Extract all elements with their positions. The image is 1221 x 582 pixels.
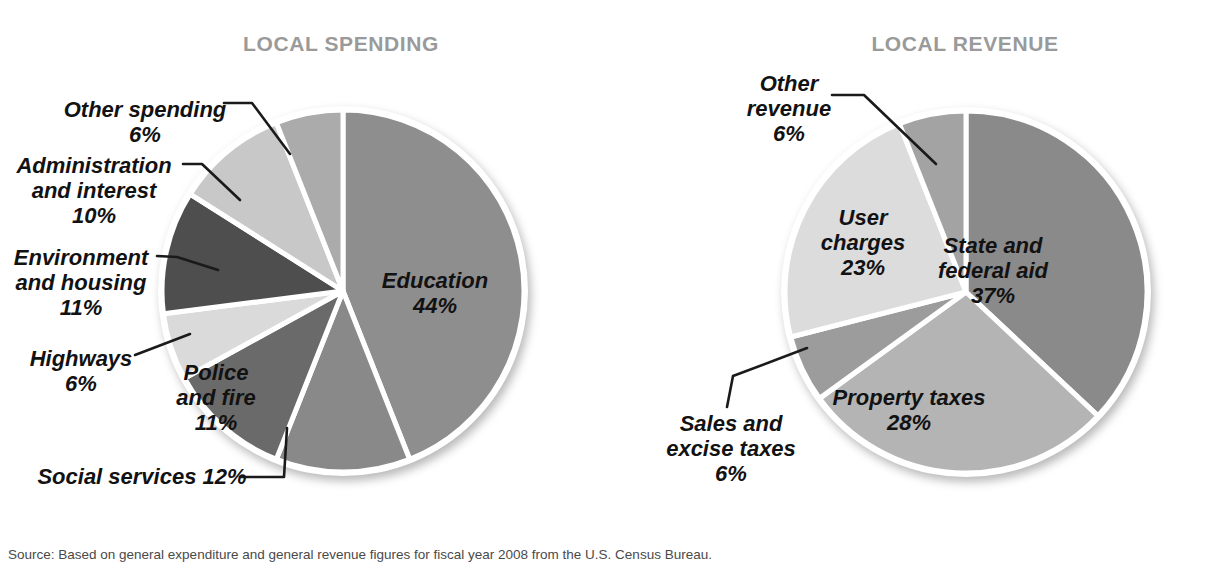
label-other-revenue: Other revenue 6% — [747, 71, 831, 146]
label-highways: Highways 6% — [30, 346, 133, 396]
label-property-taxes: Property taxes 28% — [833, 385, 986, 435]
chart-title-local-spending: LOCAL SPENDING — [243, 32, 439, 56]
label-administration-and-interest: Administration and interest 10% — [16, 153, 171, 228]
label-police-and-fire: Police and fire 11% — [176, 360, 255, 435]
label-other-spending: Other spending 6% — [64, 97, 227, 147]
label-environment-and-housing: Environment and housing 11% — [14, 245, 148, 320]
label-education: Education 44% — [382, 268, 488, 318]
label-user-charges: User charges 23% — [821, 205, 905, 280]
label-social-services: Social services 12% — [37, 464, 246, 489]
chart-title-local-revenue: LOCAL REVENUE — [871, 32, 1058, 56]
two-pie-chart-figure: LOCAL SPENDING LOCAL REVENUE Education 4… — [0, 0, 1221, 582]
label-sales-and-excise-taxes: Sales and excise taxes 6% — [666, 411, 796, 486]
source-note: Source: Based on general expenditure and… — [8, 547, 712, 562]
label-state-and-federal-aid: State and federal aid 37% — [938, 233, 1048, 308]
